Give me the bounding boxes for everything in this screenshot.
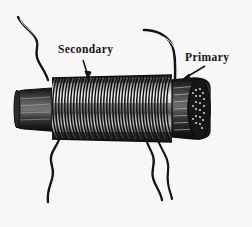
- label-secondary: Secondary: [58, 44, 113, 56]
- induction-coil-figure: Secondary Primary: [0, 0, 252, 227]
- secondary-leader-arrow: [83, 60, 91, 79]
- coil-illustration: [0, 0, 252, 227]
- core-right-end: [172, 78, 210, 139]
- label-primary: Primary: [185, 52, 229, 64]
- lead-top-left: [18, 17, 50, 80]
- secondary-winding: [50, 75, 174, 142]
- lead-bottom-left: [48, 137, 62, 202]
- core-left-stub: [14, 88, 52, 131]
